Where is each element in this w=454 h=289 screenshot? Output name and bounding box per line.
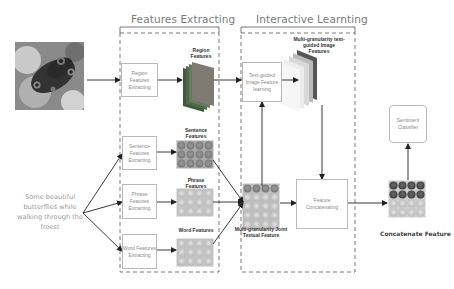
feature-dot <box>398 199 406 207</box>
feature-dot <box>187 240 195 248</box>
input-text: Some beautiful butterflies while walking… <box>14 192 86 232</box>
feature-dot <box>205 151 213 159</box>
input-image <box>15 42 84 110</box>
phrase-features-extracting-box: Phrase Features Extracting <box>122 184 157 219</box>
feature-dot <box>196 151 204 159</box>
feature-dot <box>178 151 186 159</box>
feature-dot <box>178 160 186 168</box>
feature-dot <box>271 185 279 193</box>
feature-dot <box>178 208 186 216</box>
feature-dot <box>398 190 406 198</box>
arrow-sentence-grid-to-joint <box>213 160 243 202</box>
feature-dot <box>187 190 195 198</box>
feature-dot <box>253 212 261 220</box>
feature-dot <box>253 203 261 211</box>
feature-dot <box>196 142 204 150</box>
feature-dot <box>187 142 195 150</box>
feature-dot <box>389 199 397 207</box>
text-guided-learning-box: Text-guided Image Feature learning <box>242 62 282 102</box>
feature-dot <box>205 258 213 266</box>
feature-dot <box>244 194 252 202</box>
concatenate-feature-grid <box>389 181 426 218</box>
feature-dot <box>244 212 252 220</box>
phrase-features-grid <box>177 189 214 217</box>
feature-dot <box>178 249 186 257</box>
feature-dot <box>262 212 270 220</box>
feature-dot <box>187 249 195 257</box>
feature-dot <box>416 199 424 207</box>
word-features-grid <box>177 239 214 267</box>
sentence-features-label: Sentence Features <box>178 127 214 139</box>
sentence-features-grid <box>177 141 214 169</box>
feature-dot <box>196 240 204 248</box>
feature-dot <box>205 249 213 257</box>
feature-dot <box>187 160 195 168</box>
butterfly-icon <box>15 42 84 110</box>
phrase-features-label: Phrase Features <box>178 177 214 189</box>
feature-dot <box>178 258 186 266</box>
feature-dot <box>205 208 213 216</box>
feature-dot <box>253 185 261 193</box>
region-features-stack <box>183 62 214 112</box>
feature-dot <box>416 181 424 189</box>
feature-dot <box>389 208 397 216</box>
word-features-label: Word Features <box>178 227 214 233</box>
feature-dot <box>398 208 406 216</box>
feature-dot <box>205 190 213 198</box>
arrow-text-to-word <box>83 213 122 251</box>
feature-dot <box>187 199 195 207</box>
feature-dot <box>205 142 213 150</box>
feature-dot <box>271 194 279 202</box>
feature-dot <box>407 199 415 207</box>
region-features-extracting-box: Region Features Extracting <box>121 63 158 97</box>
feature-dot <box>271 212 279 220</box>
feature-dot <box>389 181 397 189</box>
arrow-text-to-sentence <box>83 154 122 213</box>
feature-dot <box>205 199 213 207</box>
feature-dot <box>262 185 270 193</box>
joint-textual-feature-label: Multi-granularity Joint Textual Feature <box>228 226 294 238</box>
feature-dot <box>196 199 204 207</box>
sentiment-classifier-box: Sentiment Classifier <box>389 105 427 143</box>
feature-dot <box>196 208 204 216</box>
feature-dot <box>178 142 186 150</box>
region-features-label: Region Features <box>186 47 216 59</box>
feature-dot <box>407 181 415 189</box>
feature-dot <box>416 190 424 198</box>
feature-dot <box>187 151 195 159</box>
joint-textual-feature-grid <box>243 184 280 230</box>
sentence-features-extracting-box: Sentence Features Extracting <box>122 136 157 170</box>
feature-dot <box>187 208 195 216</box>
concatenate-feature-label: Concatenate Feature <box>380 230 451 237</box>
text-guided-label: Text-guided Image Feature learning <box>243 72 281 93</box>
word-features-extracting-box: Word Features Extracting <box>122 234 157 269</box>
feature-dot <box>416 208 424 216</box>
feature-dot <box>178 240 186 248</box>
feature-dot <box>244 203 252 211</box>
feature-dot <box>407 208 415 216</box>
phrase-extract-label: Phrase Features Extracting <box>123 191 156 212</box>
feature-concat-label: Feature Concatenating <box>297 197 347 211</box>
feature-dot <box>262 194 270 202</box>
feature-dot <box>205 160 213 168</box>
feature-dot <box>205 240 213 248</box>
feature-dot <box>398 181 406 189</box>
feature-dot <box>262 203 270 211</box>
feature-dot <box>389 190 397 198</box>
multi-image-features-stack <box>280 50 317 112</box>
classifier-label: Sentiment Classifier <box>390 117 426 131</box>
feature-dot <box>178 190 186 198</box>
feature-concatenating-box: Feature Concatenating <box>296 179 348 229</box>
multi-image-features-label: Multi-granularity text-guided Image Feat… <box>293 36 345 54</box>
feature-dot <box>196 160 204 168</box>
feature-dot <box>187 258 195 266</box>
feature-dot <box>196 190 204 198</box>
feature-dot <box>196 258 204 266</box>
feature-dot <box>196 249 204 257</box>
feature-dot <box>178 199 186 207</box>
feature-dot <box>271 203 279 211</box>
feature-dot <box>253 194 261 202</box>
feature-dot <box>244 185 252 193</box>
word-extract-label: Word Features Extracting <box>123 245 156 259</box>
feature-dot <box>407 190 415 198</box>
